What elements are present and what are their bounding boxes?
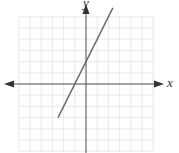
coordinate-plane [0,0,179,153]
plotted-line [58,8,113,118]
axes [4,4,164,153]
x-axis-left-arrow-icon [4,81,14,88]
y-axis-label: y [83,0,89,9]
function-line [58,8,113,118]
x-axis-right-arrow-icon [154,81,164,88]
x-axis-label: x [167,76,173,89]
